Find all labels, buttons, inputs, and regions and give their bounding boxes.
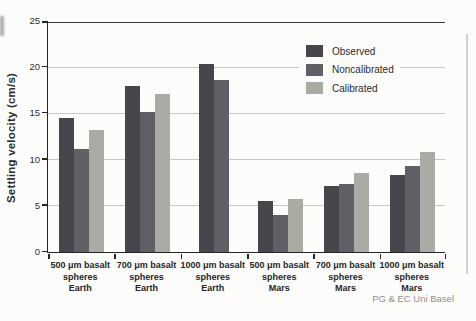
y-tick-20 [42, 66, 48, 68]
bar-calibrated-group2 [155, 94, 170, 252]
x-tick-2 [181, 254, 183, 259]
y-tick-label-0: 0 [16, 246, 40, 257]
legend-label-noncalibrated: Noncalibrated [332, 64, 394, 75]
y-tick-label-20: 20 [16, 61, 40, 72]
legend-row-observed: Observed [306, 42, 394, 61]
bar-calibrated-group1 [89, 130, 104, 252]
x-tick-0 [48, 254, 50, 259]
scan-edge-line [466, 34, 468, 274]
y-tick-label-15: 15 [16, 107, 40, 118]
bar-noncalibrated-group4 [273, 215, 288, 252]
legend-label-calibrated: Calibrated [332, 83, 378, 94]
attribution-text: PG & EC Uni Basel [372, 293, 454, 304]
bar-observed-group5 [324, 186, 339, 252]
legend-row-calibrated: Calibrated [306, 79, 394, 98]
settling-velocity-bar-chart: Settling velocity (cm/s) 0510152025 Obse… [0, 0, 476, 321]
x-tick-3 [247, 254, 249, 259]
bar-calibrated-group5 [354, 173, 369, 252]
bar-noncalibrated-group6 [405, 166, 420, 252]
gridline-5 [48, 205, 445, 206]
gridline-15 [48, 113, 445, 114]
x-tick-1 [114, 254, 116, 259]
y-tick-label-10: 10 [16, 154, 40, 165]
bar-calibrated-group6 [420, 152, 435, 252]
bar-noncalibrated-group2 [140, 112, 155, 252]
y-axis-title: Settling velocity (cm/s) [5, 72, 17, 202]
gridline-10 [48, 159, 445, 160]
bar-observed-group3 [199, 64, 214, 252]
legend-label-observed: Observed [332, 46, 375, 57]
legend: ObservedNoncalibratedCalibrated [299, 40, 400, 100]
y-tick-10 [42, 158, 48, 160]
y-tick-25 [42, 21, 48, 23]
y-tick-label-25: 25 [16, 15, 40, 26]
legend-swatch-noncalibrated [306, 64, 323, 76]
x-label-line: spheres [367, 272, 457, 284]
bar-observed-group4 [258, 201, 273, 252]
x-tick-4 [313, 254, 315, 259]
bar-calibrated-group4 [288, 199, 303, 252]
legend-row-noncalibrated: Noncalibrated [306, 61, 394, 80]
x-label-group6: 1000 μm basaltspheresMars [367, 260, 457, 295]
bar-noncalibrated-group3 [214, 80, 229, 252]
y-tick-15 [42, 112, 48, 114]
y-tick-5 [42, 204, 48, 206]
x-tick-end [445, 254, 447, 259]
bar-observed-group6 [390, 175, 405, 252]
x-label-line: 1000 μm basalt [367, 260, 457, 272]
x-tick-5 [380, 254, 382, 259]
y-tick-label-5: 5 [16, 200, 40, 211]
legend-swatch-calibrated [306, 82, 323, 94]
bar-observed-group2 [125, 86, 140, 252]
legend-swatch-observed [306, 45, 323, 57]
y-axis-title-wrap: Settling velocity (cm/s) [2, 22, 20, 253]
bar-observed-group1 [59, 118, 74, 252]
bar-noncalibrated-group1 [74, 149, 89, 252]
y-tick-0 [42, 251, 48, 253]
bar-noncalibrated-group5 [339, 184, 354, 252]
